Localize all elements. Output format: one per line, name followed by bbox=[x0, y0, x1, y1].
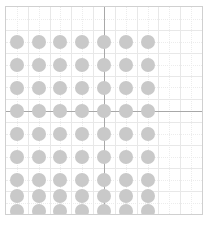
data-point bbox=[75, 204, 89, 215]
data-point bbox=[141, 81, 155, 95]
data-point bbox=[75, 173, 89, 187]
data-point bbox=[53, 189, 67, 203]
data-point bbox=[141, 189, 155, 203]
data-point bbox=[32, 81, 46, 95]
data-point bbox=[53, 204, 67, 215]
data-point bbox=[119, 150, 133, 164]
data-point bbox=[32, 204, 46, 215]
data-point bbox=[119, 35, 133, 49]
scatter-figure bbox=[0, 0, 209, 231]
data-point bbox=[75, 81, 89, 95]
data-point bbox=[97, 81, 111, 95]
data-point bbox=[32, 58, 46, 72]
data-point bbox=[141, 127, 155, 141]
data-point bbox=[97, 150, 111, 164]
data-point bbox=[75, 189, 89, 203]
data-point bbox=[141, 104, 155, 118]
data-point bbox=[75, 104, 89, 118]
data-point bbox=[141, 150, 155, 164]
data-point bbox=[97, 58, 111, 72]
data-point bbox=[10, 173, 24, 187]
data-point bbox=[53, 104, 67, 118]
data-point bbox=[10, 127, 24, 141]
data-point bbox=[32, 127, 46, 141]
plot-area bbox=[5, 6, 203, 215]
data-point bbox=[75, 35, 89, 49]
data-point bbox=[10, 58, 24, 72]
data-point bbox=[10, 204, 24, 215]
data-point bbox=[141, 58, 155, 72]
data-point bbox=[119, 189, 133, 203]
data-point bbox=[97, 189, 111, 203]
data-point bbox=[10, 150, 24, 164]
data-point bbox=[10, 81, 24, 95]
data-point bbox=[32, 35, 46, 49]
data-point bbox=[32, 173, 46, 187]
data-point bbox=[119, 173, 133, 187]
data-point bbox=[10, 189, 24, 203]
data-point bbox=[97, 127, 111, 141]
data-point bbox=[32, 104, 46, 118]
data-point bbox=[75, 58, 89, 72]
data-point bbox=[141, 173, 155, 187]
data-point bbox=[119, 204, 133, 215]
data-point bbox=[141, 35, 155, 49]
data-point bbox=[53, 127, 67, 141]
data-point bbox=[119, 58, 133, 72]
data-point bbox=[97, 104, 111, 118]
data-point bbox=[53, 58, 67, 72]
data-point bbox=[53, 173, 67, 187]
data-point bbox=[75, 127, 89, 141]
data-point bbox=[53, 81, 67, 95]
data-point bbox=[32, 189, 46, 203]
data-point bbox=[32, 150, 46, 164]
data-point bbox=[53, 35, 67, 49]
data-point bbox=[53, 150, 67, 164]
data-point bbox=[119, 104, 133, 118]
data-point bbox=[119, 127, 133, 141]
data-point bbox=[75, 150, 89, 164]
data-point bbox=[119, 81, 133, 95]
data-point bbox=[10, 104, 24, 118]
data-point bbox=[97, 173, 111, 187]
data-point bbox=[97, 204, 111, 215]
data-point bbox=[141, 204, 155, 215]
data-point bbox=[97, 35, 111, 49]
data-point bbox=[10, 35, 24, 49]
